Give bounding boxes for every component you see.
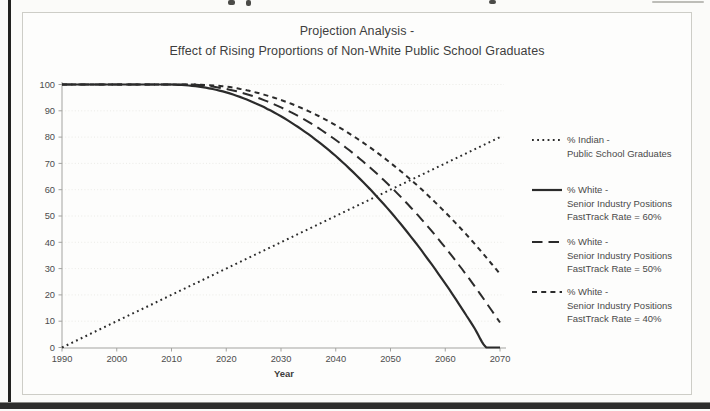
series-line-dash-long: [62, 85, 500, 323]
y-axis-tick-label: 0: [50, 343, 55, 353]
y-axis-tick-label: 100: [39, 80, 55, 90]
legend-entry: % Indian -Public School Graduates: [531, 133, 672, 160]
x-axis-title: Year: [274, 368, 294, 379]
x-axis-tick-label: 2070: [490, 354, 511, 364]
legend-label-line: FastTrack Rate = 60%: [567, 210, 672, 224]
legend-label-line: FastTrack Rate = 50%: [567, 262, 672, 276]
cropped-text-fragment: [246, 0, 251, 6]
legend-label-line: % Indian -: [567, 133, 610, 147]
legend-label-line: % White -: [567, 285, 608, 299]
y-axis-tick-label: 10: [45, 316, 55, 326]
series-line-dash-short: [62, 85, 500, 274]
legend-entry: % White -Senior Industry PositionsFastTr…: [531, 285, 672, 326]
legend-label-line: Public School Graduates: [567, 147, 672, 161]
series-line-dotted: [62, 137, 500, 347]
dash-short-line-swatch-icon: [531, 288, 563, 296]
y-axis-tick-label: 90: [45, 106, 55, 116]
y-axis-tick-label: 40: [45, 238, 55, 248]
page-border-left: [8, 0, 11, 405]
x-axis-tick-label: 2050: [380, 354, 401, 364]
solid-line-swatch-icon: [531, 186, 563, 194]
x-axis-tick-label: 2060: [435, 354, 456, 364]
y-axis-tick-label: 20: [45, 290, 55, 300]
x-axis-tick-label: 2030: [271, 354, 292, 364]
series-line-solid: [62, 85, 500, 348]
y-axis-tick-label: 60: [45, 185, 55, 195]
legend-label-line: Senior Industry Positions: [567, 299, 672, 313]
x-axis-tick-label: 2000: [106, 354, 127, 364]
y-axis-tick-label: 50: [45, 211, 55, 221]
scan-smudge: [652, 1, 704, 3]
legend-label-line: % White -: [567, 183, 608, 197]
scanned-page: { "chart": { "title_lines": ["Projection…: [0, 0, 710, 411]
legend-entry: % White -Senior Industry PositionsFastTr…: [531, 183, 672, 224]
legend-label-line: % White -: [567, 235, 608, 249]
x-axis-tick-label: 1990: [52, 354, 73, 364]
x-axis-tick-label: 2010: [161, 354, 182, 364]
dash-long-line-swatch-icon: [531, 238, 563, 246]
y-axis-tick-label: 80: [45, 132, 55, 142]
x-axis-tick-label: 2020: [216, 354, 237, 364]
dotted-line-swatch-icon: [531, 136, 563, 144]
legend-label-line: Senior Industry Positions: [567, 249, 672, 263]
legend-label-line: Senior Industry Positions: [567, 197, 672, 211]
cropped-text-fragment: [489, 0, 496, 4]
y-axis-tick-label: 30: [45, 264, 55, 274]
cropped-text-fragment: [228, 0, 235, 5]
legend-label-line: FastTrack Rate = 40%: [567, 312, 672, 326]
x-axis-tick-label: 2040: [325, 354, 346, 364]
y-axis-tick-label: 70: [45, 159, 55, 169]
page-border-bottom: [0, 403, 710, 409]
legend-entry: % White -Senior Industry PositionsFastTr…: [531, 235, 672, 276]
